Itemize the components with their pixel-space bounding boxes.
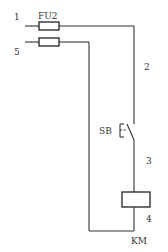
terminal-1-label: 1 bbox=[14, 12, 20, 22]
wire-label-4: 4 bbox=[146, 214, 152, 224]
fuse-2-icon bbox=[39, 38, 59, 46]
wire-line-5 bbox=[25, 42, 134, 231]
fuse-label: FU2 bbox=[38, 11, 58, 21]
wire-label-2: 2 bbox=[144, 62, 150, 72]
coil-icon bbox=[122, 192, 150, 207]
control-circuit-diagram: 1 5 FU2 2 SB 3 4 KM bbox=[0, 0, 168, 252]
wire-label-3: 3 bbox=[146, 156, 152, 166]
terminal-5-label: 5 bbox=[14, 47, 20, 57]
fuse-1-icon bbox=[39, 22, 59, 30]
coil-label: KM bbox=[131, 236, 147, 246]
pushbutton-switch-icon bbox=[120, 124, 134, 140]
switch-label: SB bbox=[99, 126, 112, 136]
